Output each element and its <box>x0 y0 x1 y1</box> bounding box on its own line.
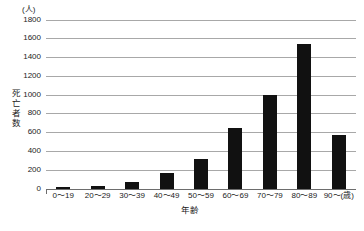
y-tick-label: 1000 <box>23 91 41 99</box>
bar <box>160 173 174 188</box>
bar <box>91 186 105 188</box>
x-tick-label: 20～29 <box>85 191 111 201</box>
x-tick-label: 90～(歳) <box>324 191 354 201</box>
y-tick-label: 1600 <box>23 34 41 42</box>
bar <box>125 182 139 188</box>
bar <box>263 95 277 188</box>
bar-slot <box>115 20 149 189</box>
mortality-by-age-bar-chart: (人) 死亡者数 0200400600800100012001400160018… <box>0 0 364 231</box>
y-axis-tick-labels: 020040060080010001200140016001800 <box>0 20 44 189</box>
y-tick-label: 0 <box>37 185 41 193</box>
bars-layer <box>46 20 356 189</box>
bar-slot <box>218 20 252 189</box>
bar-slot <box>80 20 114 189</box>
bar <box>194 159 208 188</box>
bar-slot <box>322 20 356 189</box>
plot-area <box>46 20 356 189</box>
bar-slot <box>287 20 321 189</box>
y-tick-label: 1800 <box>23 16 41 24</box>
bar <box>297 44 311 189</box>
y-axis-unit-label: (人) <box>22 5 35 14</box>
x-tick-label: 80～89 <box>291 191 317 201</box>
x-axis-tick-labels: 0～1920～2930～3940～4950～5960～6970～7980～899… <box>46 191 356 203</box>
bar-slot <box>149 20 183 189</box>
y-tick-label: 800 <box>28 109 41 117</box>
bar <box>56 187 70 188</box>
x-axis-title: 年齢 <box>181 205 199 215</box>
x-tick-label: 50～59 <box>188 191 214 201</box>
bar <box>228 128 242 188</box>
bar-slot <box>253 20 287 189</box>
y-tick-label: 1400 <box>23 53 41 61</box>
bar-slot <box>184 20 218 189</box>
x-tick-label: 0～19 <box>53 191 74 201</box>
x-tick-label: 60～69 <box>223 191 249 201</box>
bar-slot <box>46 20 80 189</box>
axis-baseline <box>46 189 356 190</box>
y-tick-label: 1200 <box>23 72 41 80</box>
bar <box>332 135 346 189</box>
y-tick-label: 600 <box>28 128 41 136</box>
x-tick-label: 70～79 <box>257 191 283 201</box>
y-tick-label: 200 <box>28 166 41 174</box>
x-axis-unit-label: (歳) <box>341 191 354 200</box>
x-tick-label: 40～49 <box>154 191 180 201</box>
x-tick-label: 30～39 <box>119 191 145 201</box>
y-tick-label: 400 <box>28 147 41 155</box>
